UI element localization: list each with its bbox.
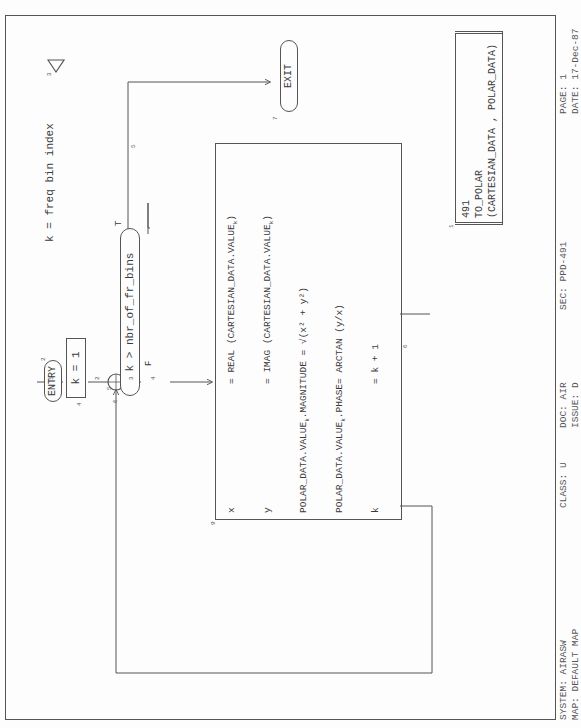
row-mag-rhs: = √(x² + y²) <box>298 287 309 355</box>
process-row-k: k <box>370 507 381 513</box>
row-y-sub: k <box>268 221 275 225</box>
annotation-number: 3 <box>46 72 53 76</box>
row-x-rhs: = REAL (CARTESIAN_DATA.VALUE <box>226 224 237 384</box>
row-y-lhs: y <box>262 507 273 513</box>
title-box-params: (CARTESIAN_DATA , POLAR_DATA) <box>486 38 499 218</box>
entry-terminator: ENTRY <box>44 360 62 402</box>
row-phase-lhs-tail: .PHASE <box>334 384 345 418</box>
process-row-y-rhs: = IMAG (CARTESIAN_DATA.VALUEk) <box>262 215 275 384</box>
flow-number-4: 4 <box>150 376 157 380</box>
flow-number-2: 2 <box>94 376 101 380</box>
title-box: 491 TO_POLAR (CARTESIAN_DATA , POLAR_DAT… <box>455 31 503 225</box>
exit-terminator: EXIT <box>280 40 298 112</box>
decision-label: k > nbr_of_fr_bins <box>124 253 136 372</box>
annotation-line1-text: k = freq bin index <box>44 123 56 242</box>
entry-label: ENTRY <box>47 366 58 396</box>
decision-box: k > nbr_of_fr_bins <box>120 228 140 396</box>
process-row-x: x <box>226 507 237 513</box>
init-box-label: k = 1 <box>70 352 82 385</box>
title-box-id: 491 <box>460 38 473 218</box>
process-row-k-rhs: = k + 1 <box>370 344 381 384</box>
footer-date: DATE: 17-Dec-87 <box>570 28 581 114</box>
title-box-name: TO_POLAR <box>473 38 486 218</box>
footer-class: CLASS: U <box>558 462 569 508</box>
row-phase-lhs-sub: k <box>340 418 347 422</box>
exit-number: 7 <box>272 116 279 120</box>
init-box: k = 1 <box>66 338 86 398</box>
process-row-phase: POLAR_DATA.VALUEk.PHASE <box>334 384 347 513</box>
flow-number-1: 1 <box>48 376 55 380</box>
flow-number-5b: 5 <box>106 386 113 390</box>
row-mag-lhs-tail: .MAGNITUDE <box>298 361 309 418</box>
footer-doc: DOC: AIR <box>558 382 569 428</box>
init-box-number: 4 <box>76 402 83 406</box>
entry-number: 2 <box>40 357 47 361</box>
row-x-tail: ) <box>226 215 237 221</box>
decision-false-label: F <box>144 361 154 366</box>
row-mag-lhs-sub: k <box>304 418 311 422</box>
process-row-x-rhs: = REAL (CARTESIAN_DATA.VALUEk) <box>226 215 239 384</box>
exit-label: EXIT <box>283 64 294 88</box>
row-k-rhs: = k + 1 <box>370 344 381 384</box>
decision-number: 6 <box>112 399 119 403</box>
annotation-line1: k = freq bin index <box>44 123 56 242</box>
title-box-number: 1 <box>448 224 455 228</box>
row-phase-rhs: = ARCTAN (y/x) <box>334 304 345 384</box>
process-row-magnitude: POLAR_DATA.VALUEk.MAGNITUDE = √(x² + y²) <box>298 287 311 513</box>
footer-issue: ISSUE: D <box>570 382 581 428</box>
row-x-sub: k <box>232 221 239 225</box>
process-row-y: y <box>262 507 273 513</box>
footer-page: PAGE: 1 <box>558 74 569 114</box>
row-phase-lhs: POLAR_DATA.VALUE <box>334 422 345 513</box>
footer-map: MAP: DEFAULT MAP <box>570 629 581 720</box>
row-mag-lhs: POLAR_DATA.VALUE <box>298 422 309 513</box>
row-y-rhs: = IMAG (CARTESIAN_DATA.VALUE <box>262 224 273 384</box>
process-row-phase-rhs: = ARCTAN (y/x) <box>334 304 345 384</box>
flow-number-9: 9 <box>210 521 217 525</box>
footer-system: SYSTEM: AIRASW <box>558 640 569 720</box>
row-x-lhs: x <box>226 507 237 513</box>
decision-true-label: T <box>114 221 124 226</box>
flow-number-6: 6 <box>402 344 409 348</box>
row-y-tail: ) <box>262 215 273 221</box>
row-k-lhs: k <box>370 507 381 513</box>
flow-number-3: 3 <box>128 376 135 380</box>
footer-sec: SEC: PPD-491 <box>558 242 569 310</box>
flow-number-5: 5 <box>130 144 137 148</box>
